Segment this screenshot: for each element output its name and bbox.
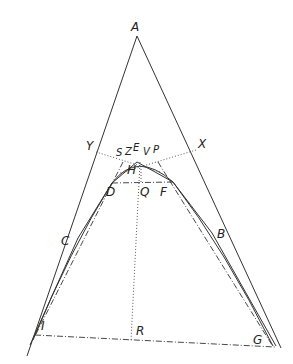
label-F: F xyxy=(160,185,168,199)
label-I: I xyxy=(41,319,45,333)
right-side-AG xyxy=(137,36,281,348)
label-G: G xyxy=(253,333,262,347)
label-Q: Q xyxy=(140,185,149,199)
label-R: R xyxy=(136,324,144,338)
label-C: C xyxy=(61,234,70,248)
left-side-AI xyxy=(27,36,137,356)
label-P: P xyxy=(153,144,160,155)
label-D: D xyxy=(106,185,115,199)
line-E-R xyxy=(131,162,140,341)
label-A: A xyxy=(130,20,139,34)
label-X: X xyxy=(197,137,207,151)
label-S: S xyxy=(116,147,123,158)
line-DF xyxy=(112,182,173,183)
label-E: E xyxy=(133,142,140,153)
line-IG xyxy=(35,335,275,347)
label-Y: Y xyxy=(86,139,95,153)
label-B: B xyxy=(217,227,225,241)
inner-smooth-curve xyxy=(33,166,273,346)
label-Z: Z xyxy=(124,146,133,157)
label-V: V xyxy=(143,146,151,157)
line-P-G xyxy=(158,162,272,345)
outer-polyline-curve xyxy=(30,162,276,346)
geometry-diagram: A Y X S Z E V P H D Q F C B I R G xyxy=(0,0,293,364)
label-H: H xyxy=(127,163,136,177)
